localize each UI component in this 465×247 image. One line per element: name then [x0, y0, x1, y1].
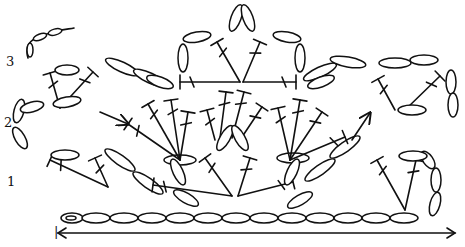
transition-arrow-right	[352, 113, 370, 140]
chain-stitch	[145, 73, 175, 92]
chain-stitch	[110, 213, 138, 223]
double-crochet-cap	[256, 103, 268, 111]
double-crochet-stem	[378, 79, 395, 110]
double-crochet-stem	[290, 100, 300, 160]
double-crochet-bar	[310, 121, 321, 123]
double-crochet-cap	[316, 108, 328, 116]
chain-stitch	[178, 44, 188, 72]
double-crochet-bar	[330, 138, 338, 146]
chain-stitch	[272, 30, 301, 45]
crochet-chart: 3 2 1 |	[0, 0, 465, 247]
double-crochet-stem	[207, 110, 215, 140]
slip-knot	[66, 216, 76, 220]
chain-stitch	[334, 213, 362, 223]
double-crochet-cap	[293, 99, 307, 101]
chain-stitch	[222, 213, 250, 223]
double-crochet-bar	[241, 169, 252, 170]
double-crochet-stem	[243, 42, 260, 82]
double-crochet-stem	[278, 108, 290, 160]
double-crochet-stem	[377, 160, 405, 210]
chain-stitch	[194, 213, 222, 223]
chain-stitch	[82, 213, 110, 223]
double-crochet-stem	[238, 158, 250, 196]
double-crochet-cap	[371, 157, 383, 164]
chain-stitch	[51, 150, 79, 160]
double-crochet-bar	[293, 111, 304, 113]
row-label-2: 2	[4, 115, 12, 130]
double-crochet-stem	[128, 124, 180, 160]
turning-chain-left	[10, 98, 45, 151]
chain-stitch	[285, 189, 314, 212]
chain-stitch	[362, 213, 390, 223]
double-crochet-bar	[61, 160, 62, 171]
double-crochet-cap	[211, 39, 223, 46]
double-crochet-cap	[199, 154, 210, 162]
row-label-1: 1	[7, 174, 15, 189]
chain-stitch	[390, 213, 418, 223]
chain-stitch	[55, 65, 79, 75]
chain-stitch	[102, 146, 137, 175]
double-crochet-bar	[181, 123, 192, 125]
double-crochet-cap	[372, 76, 384, 83]
double-crochet-bar	[80, 79, 90, 83]
chain-stitch	[399, 151, 427, 161]
chain-stitch	[379, 58, 411, 68]
transition-arrow-left	[100, 112, 128, 124]
double-crochet-cap	[89, 155, 102, 161]
double-crochet-bar	[250, 116, 261, 118]
chain-stitch	[166, 213, 194, 223]
double-crochet-cap	[142, 101, 154, 108]
starting-tail	[27, 27, 63, 57]
base-chain	[61, 213, 418, 223]
double-crochet-bar	[426, 82, 436, 86]
chain-stitch	[130, 169, 165, 198]
double-crochet-stem	[205, 158, 232, 196]
chain-stitch	[182, 30, 211, 45]
double-crochet-stem	[50, 160, 108, 187]
chain-stitch	[410, 55, 438, 65]
double-crochet-cap	[164, 99, 178, 101]
stitch-group	[43, 3, 445, 211]
double-crochet-stem	[405, 160, 416, 210]
chain-stitch	[398, 105, 426, 115]
chain-stitch	[306, 213, 334, 223]
chain-stitch	[138, 213, 166, 223]
double-crochet-cap	[219, 91, 233, 93]
chain-stitch	[278, 213, 306, 223]
start-marker: |	[54, 224, 58, 239]
double-crochet-bar	[408, 171, 419, 173]
row-label-3: 3	[6, 54, 14, 69]
double-crochet-bar	[236, 103, 247, 104]
double-crochet-stem	[180, 112, 188, 160]
chain-stitch	[295, 44, 305, 72]
double-crochet-cap	[181, 111, 195, 113]
chain-stitch	[104, 55, 141, 79]
double-crochet-bar	[96, 165, 103, 173]
double-crochet-stem	[217, 42, 240, 82]
chain-stitch	[250, 213, 278, 223]
